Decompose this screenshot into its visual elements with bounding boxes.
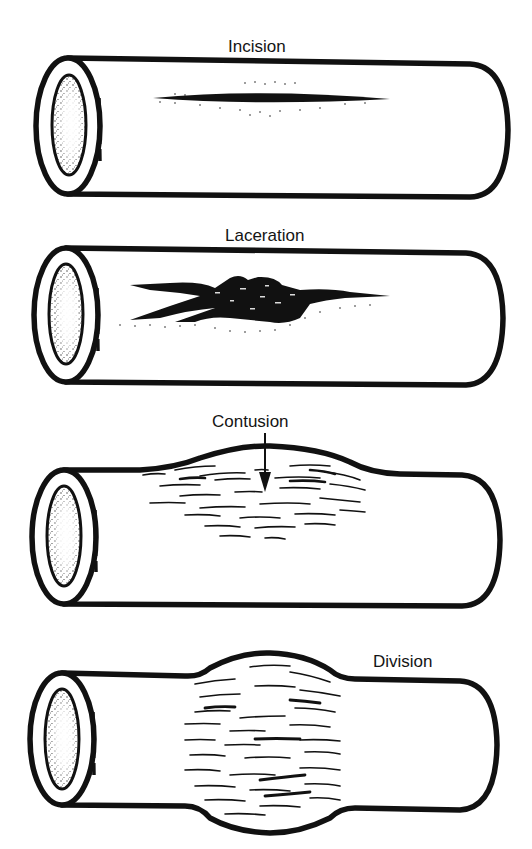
label-incision: Incision	[228, 37, 286, 56]
panel-laceration: Laceration	[34, 226, 503, 385]
vessel-injury-diagram: Incision Laceration	[0, 0, 532, 849]
label-division: Division	[373, 652, 433, 671]
label-laceration: Laceration	[225, 226, 304, 245]
label-contusion: Contusion	[212, 412, 289, 431]
panel-contusion: Contusion	[32, 412, 500, 606]
panel-incision: Incision	[36, 37, 508, 197]
panel-division: Division	[30, 652, 497, 833]
vessel-tube	[36, 58, 508, 197]
